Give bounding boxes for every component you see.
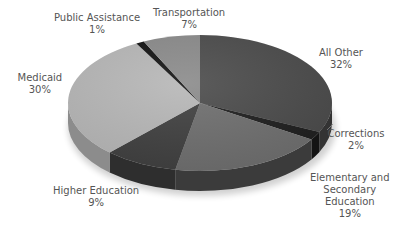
slice-label: Public Assistance 1% bbox=[54, 12, 140, 36]
slice-label: Elementary and Secondary Education 19% bbox=[310, 172, 390, 220]
slice-label: All Other 32% bbox=[319, 47, 363, 71]
slice-label: Medicaid 30% bbox=[18, 72, 63, 96]
pie-highlight bbox=[68, 35, 332, 171]
slice-label: Corrections 2% bbox=[328, 128, 385, 152]
slice-label: Higher Education 9% bbox=[53, 185, 139, 209]
slice-label: Transportation 7% bbox=[153, 7, 225, 31]
